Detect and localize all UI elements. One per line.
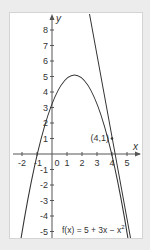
y-tick-label: -1 xyxy=(40,165,48,175)
y-axis-arrow xyxy=(50,14,55,20)
y-tick-label: 7 xyxy=(43,41,48,51)
point-label: (4,1) xyxy=(90,133,109,143)
x-tick-label: -2 xyxy=(18,158,26,168)
x-tick-label: 5 xyxy=(124,158,129,168)
parabola xyxy=(21,75,128,238)
y-tick-label: -3 xyxy=(40,196,48,206)
x-tick-label: 2 xyxy=(79,158,84,168)
y-tick-label: -2 xyxy=(40,180,48,190)
y-tick-label: 4 xyxy=(43,87,48,97)
y-tick-label: 8 xyxy=(43,25,48,35)
y-tick-label: 6 xyxy=(43,56,48,66)
x-tick-label: 3 xyxy=(94,158,99,168)
x-axis-arrow xyxy=(135,152,141,157)
tangent-point xyxy=(111,137,114,140)
y-tick-label: -5 xyxy=(40,227,48,237)
y-tick-label: 5 xyxy=(43,72,48,82)
tangent-line xyxy=(90,14,131,238)
x-tick-label: 1 xyxy=(64,158,69,168)
y-axis-label: y xyxy=(55,13,62,24)
y-tick-label: -4 xyxy=(40,211,48,221)
function-label: f(x) = 5 + 3x − x2 xyxy=(62,224,125,235)
function-graph: -2 -1 0 1 2 3 4 5 8 7 6 5 4 3 2 1 -1 -2 … xyxy=(0,0,150,250)
y-tick-label: 3 xyxy=(43,103,48,113)
x-tick-label: 0 xyxy=(54,158,59,168)
x-axis-label: x xyxy=(132,141,139,152)
